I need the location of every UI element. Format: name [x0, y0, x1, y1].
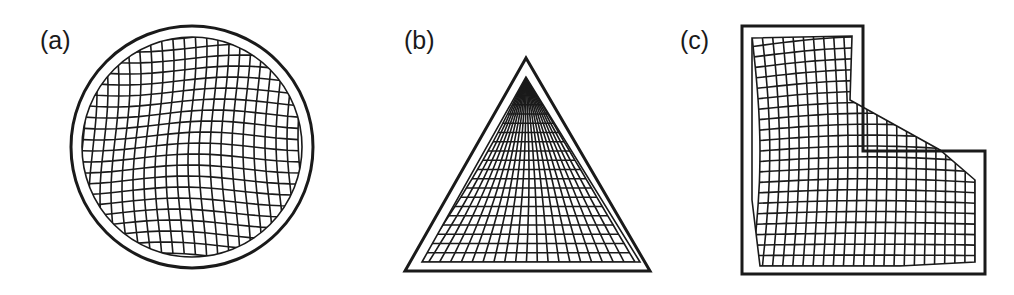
panel-a-circle-mesh	[71, 26, 313, 268]
figure-canvas	[0, 0, 1014, 295]
panel-c-l-shape-mesh	[742, 26, 985, 274]
panel-b-triangle-mesh	[405, 58, 650, 271]
